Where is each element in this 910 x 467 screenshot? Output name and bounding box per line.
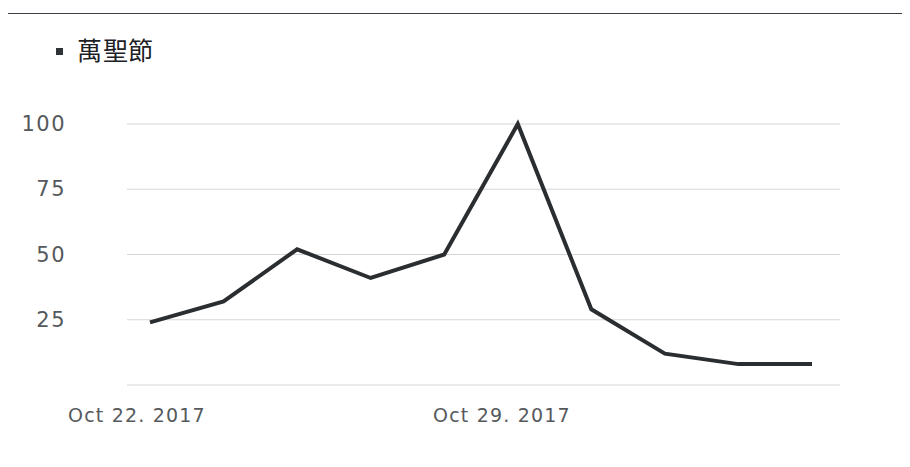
chart-plot-area[interactable] (0, 0, 910, 467)
trends-chart-panel: 萬聖節 100 75 50 25 Oct 22. 2017 Oct 29. 20… (0, 0, 910, 467)
gridlines (127, 124, 840, 385)
series-line-萬聖節[interactable] (150, 124, 812, 364)
series-lines (150, 124, 812, 364)
